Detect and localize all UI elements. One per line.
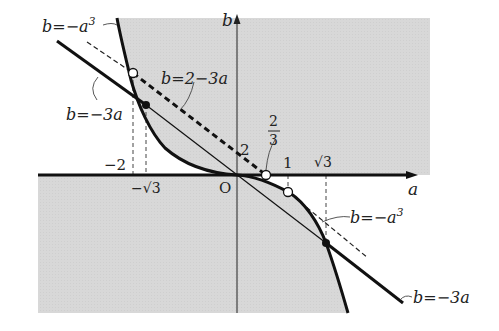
tick-label-b-2: 2: [240, 141, 250, 159]
tick-label-1: 1: [283, 154, 293, 172]
label-line-minus-3a-left: b=−3a: [66, 105, 123, 124]
point-filled-sqrt3: [322, 239, 330, 247]
point-open-two-thirds: [262, 171, 271, 180]
a-axis-label: a: [408, 179, 418, 199]
point-filled-minus-sqrt3: [142, 101, 150, 109]
label-line-2-minus-3a: b=2−3a: [161, 69, 228, 88]
label-cubic-right: b=−a3: [350, 206, 404, 227]
shaded-region-upper: [117, 18, 430, 175]
b-axis-label: b: [222, 10, 233, 30]
point-open-1-minus1: [284, 188, 293, 197]
tick-label-minus-2: −2: [104, 156, 126, 174]
fraction-numerator: 2: [269, 113, 278, 129]
label-line-minus-3a-right: b=−3a: [413, 288, 470, 307]
tick-label-minus-sqrt3: −√3: [131, 180, 161, 196]
shaded-region-lower: [38, 175, 348, 313]
region-diagram: b a O −2 −√3 1 √3 2 2 3 b=−a3 b=2−3a b=−…: [0, 0, 499, 331]
origin-label: O: [219, 179, 231, 197]
label-cubic-top: b=−a3: [42, 15, 96, 36]
tick-label-sqrt3: √3: [314, 154, 332, 170]
fraction-denominator: 3: [269, 132, 278, 148]
point-open-minus2-8: [129, 69, 138, 78]
